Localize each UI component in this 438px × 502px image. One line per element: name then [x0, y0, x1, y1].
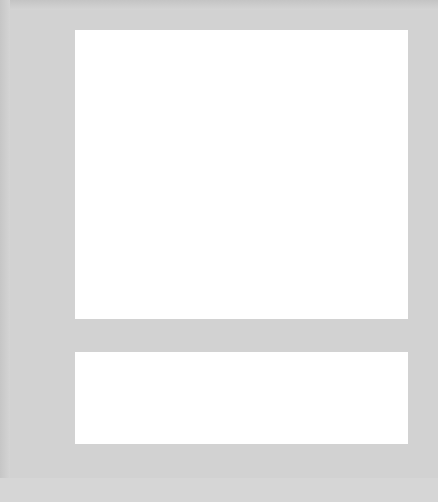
- figure-canvas: [0, 0, 438, 502]
- chart-level-of-cpi: [75, 30, 408, 319]
- plot-area-bottom: [75, 352, 408, 444]
- plot-area-top: [75, 30, 408, 319]
- cpi-dual-chart: [0, 0, 438, 502]
- chart-rate-of-increase: [75, 352, 408, 444]
